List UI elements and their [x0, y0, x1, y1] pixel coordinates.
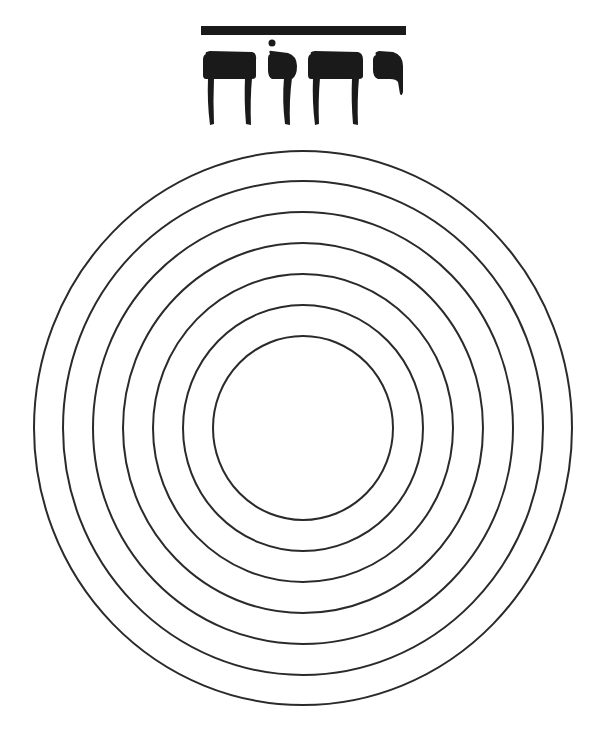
ring-2 [63, 181, 543, 675]
concentric-rings [34, 151, 572, 705]
ring-3 [93, 212, 513, 644]
ring-6 [183, 305, 423, 551]
letter-heh-left [203, 51, 256, 125]
ring-4 [123, 243, 483, 613]
letter-heh-right [308, 51, 363, 125]
ring-5 [153, 274, 453, 582]
letter-vav [268, 40, 297, 126]
ring-1 [34, 151, 572, 705]
tetragrammaton-diagram [0, 0, 602, 730]
letter-yod [373, 51, 403, 95]
overline-bar [201, 26, 406, 35]
diagram-canvas: יהוה [0, 0, 602, 730]
ring-7 [213, 336, 393, 520]
hebrew-letters [203, 40, 403, 126]
